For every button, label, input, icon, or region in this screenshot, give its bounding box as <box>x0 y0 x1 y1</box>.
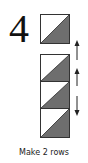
column-block-1 <box>40 54 70 82</box>
arrow-up-icon <box>72 68 82 86</box>
triangle-shape-icon <box>41 55 69 81</box>
triangle-shape-icon <box>41 15 69 43</box>
column-block-3 <box>40 108 70 138</box>
arrow-up-icon <box>72 40 82 60</box>
column-block-2 <box>40 81 70 109</box>
arrow-down-icon <box>72 96 82 116</box>
triangle-shape-icon <box>41 109 69 137</box>
triangle-shape-icon <box>41 82 69 108</box>
step-caption: Make 2 rows <box>0 148 88 158</box>
step-number: 4 <box>9 9 29 49</box>
half-square-triangle-single <box>40 14 70 44</box>
